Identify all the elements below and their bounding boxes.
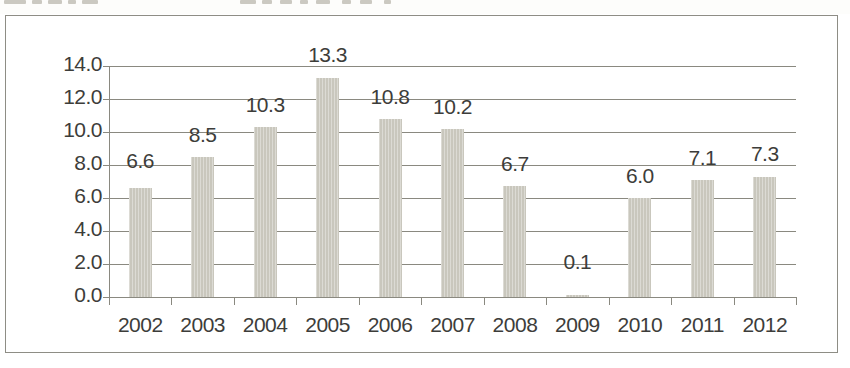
y-axis-tick-label: 6.0 xyxy=(74,184,102,208)
y-axis-tick-label: 10.0 xyxy=(63,118,102,142)
y-axis-tick xyxy=(103,132,110,133)
bar-value-label: 7.1 xyxy=(672,146,732,170)
bar-value-label: 7.3 xyxy=(735,142,795,166)
x-axis-category-label: 2003 xyxy=(168,313,238,337)
x-axis-tick xyxy=(359,297,360,305)
y-axis-tick xyxy=(103,66,110,67)
ink-smudge xyxy=(316,0,330,4)
ink-smudge xyxy=(32,0,42,4)
chart-frame: 14.012.010.08.06.04.02.00.0 6.620028.520… xyxy=(5,15,838,353)
ink-smudge xyxy=(262,0,272,4)
x-axis-category-label: 2012 xyxy=(730,313,800,337)
bar-value-label: 6.6 xyxy=(110,149,170,173)
bar-value-label: 0.1 xyxy=(547,250,607,274)
bar[interactable] xyxy=(129,188,152,297)
bar[interactable] xyxy=(503,186,526,297)
x-axis-category-label: 2005 xyxy=(293,313,363,337)
y-axis-tick xyxy=(103,99,110,100)
bar-value-label: 8.5 xyxy=(173,123,233,147)
y-axis-tick xyxy=(103,231,110,232)
x-axis-tick xyxy=(421,297,422,305)
x-axis-tick xyxy=(234,297,235,305)
bar-value-label: 10.2 xyxy=(423,95,483,119)
bar[interactable] xyxy=(753,177,776,297)
y-axis-tick-label: 2.0 xyxy=(74,250,102,274)
y-axis-tick-label: 14.0 xyxy=(63,52,102,76)
ink-smudge xyxy=(68,0,76,4)
ink-smudge xyxy=(360,0,372,4)
bar[interactable] xyxy=(254,127,277,297)
y-axis-tick xyxy=(103,264,110,265)
y-axis-tick-label: 0.0 xyxy=(74,283,102,307)
x-axis-category-label: 2009 xyxy=(542,313,612,337)
gridline xyxy=(109,66,796,67)
bar-value-label: 6.7 xyxy=(485,152,545,176)
ink-smudge xyxy=(48,0,62,4)
bar[interactable] xyxy=(628,198,651,297)
bar[interactable] xyxy=(191,157,214,297)
x-axis-tick xyxy=(171,297,172,305)
ink-smudge xyxy=(240,0,256,4)
y-axis-tick-label: 12.0 xyxy=(63,85,102,109)
x-axis-category-label: 2008 xyxy=(480,313,550,337)
x-axis-category-label: 2002 xyxy=(105,313,175,337)
x-axis-tick xyxy=(484,297,485,305)
x-axis-tick xyxy=(546,297,547,305)
x-axis-category-label: 2011 xyxy=(667,313,737,337)
ink-smudge xyxy=(342,0,351,4)
ink-smudge xyxy=(82,0,98,4)
bar-value-label: 10.3 xyxy=(235,93,295,117)
bar[interactable] xyxy=(316,78,339,297)
x-axis-category-label: 2004 xyxy=(230,313,300,337)
bar[interactable] xyxy=(379,119,402,297)
scanned-page-artifact-strip xyxy=(0,0,850,14)
x-axis-tick xyxy=(296,297,297,305)
x-axis-category-label: 2010 xyxy=(605,313,675,337)
y-axis-tick xyxy=(103,198,110,199)
bar[interactable] xyxy=(691,180,714,297)
x-axis-tick xyxy=(109,297,110,305)
ink-smudge xyxy=(4,0,26,4)
bar-value-label: 6.0 xyxy=(610,164,670,188)
x-axis-tick xyxy=(796,297,797,305)
y-axis-tick-label: 4.0 xyxy=(74,217,102,241)
x-axis-category-label: 2006 xyxy=(355,313,425,337)
ink-smudge xyxy=(384,0,391,4)
bar-value-label: 13.3 xyxy=(298,43,358,67)
y-axis-tick-label: 8.0 xyxy=(74,151,102,175)
y-axis-tick-labels: 14.012.010.08.06.04.02.00.0 xyxy=(36,66,102,297)
bar[interactable] xyxy=(441,129,464,297)
plot-area: 6.620028.5200310.3200413.3200510.8200610… xyxy=(109,66,796,297)
x-axis-category-label: 2007 xyxy=(418,313,488,337)
x-axis-tick xyxy=(671,297,672,305)
ink-smudge xyxy=(280,0,292,4)
x-axis-tick xyxy=(609,297,610,305)
bar-value-label: 10.8 xyxy=(360,85,420,109)
x-axis-line xyxy=(109,297,796,298)
x-axis-tick xyxy=(734,297,735,305)
ink-smudge xyxy=(300,0,308,4)
bar[interactable] xyxy=(566,295,589,297)
y-axis-tick xyxy=(103,165,110,166)
